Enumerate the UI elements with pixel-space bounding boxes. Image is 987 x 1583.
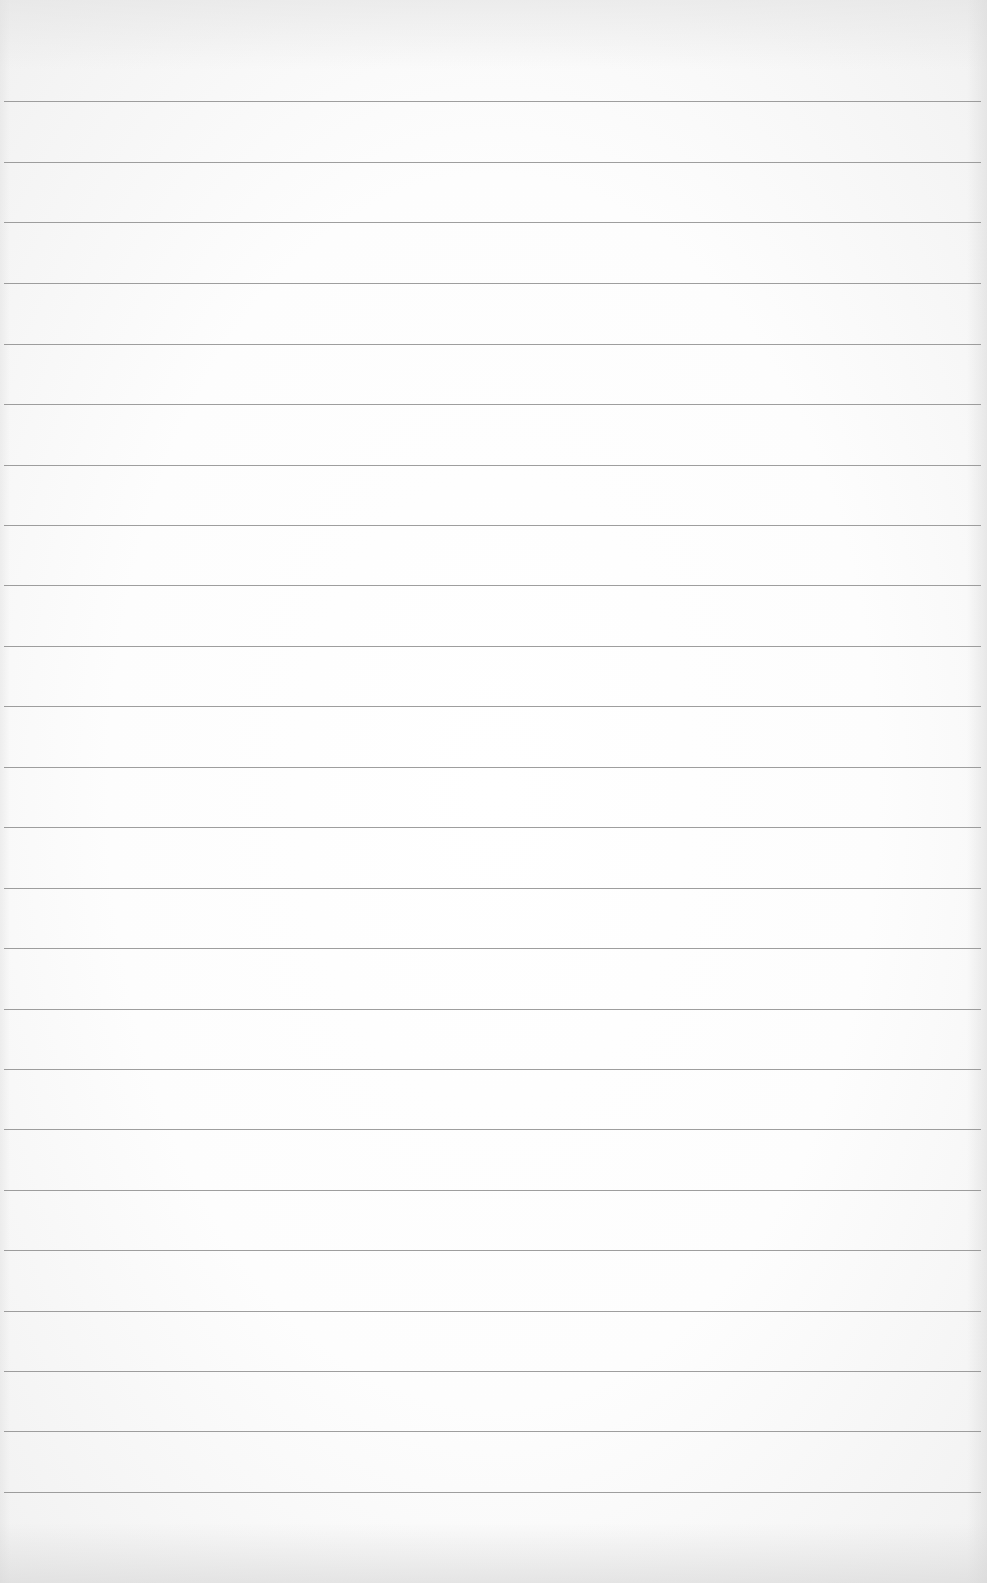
- ruled-line: [4, 344, 981, 345]
- ruled-line: [4, 1250, 981, 1251]
- paper-shadow-bottom: [0, 1523, 987, 1583]
- ruled-line: [4, 948, 981, 949]
- ruled-line: [4, 222, 981, 223]
- ruled-line: [4, 404, 981, 405]
- ruled-line: [4, 827, 981, 828]
- ruled-line: [4, 101, 981, 102]
- ruled-line: [4, 706, 981, 707]
- ruled-line: [4, 162, 981, 163]
- paper-shadow-left: [0, 0, 10, 1583]
- ruled-line: [4, 525, 981, 526]
- ruled-line: [4, 1311, 981, 1312]
- ruled-line: [4, 1431, 981, 1432]
- ruled-line: [4, 1069, 981, 1070]
- ruled-paper-sheet: [0, 0, 987, 1583]
- paper-shadow-top: [0, 0, 987, 70]
- ruled-line: [4, 1129, 981, 1130]
- ruled-line: [4, 1009, 981, 1010]
- ruled-line: [4, 1190, 981, 1191]
- ruled-line: [4, 283, 981, 284]
- ruled-line: [4, 585, 981, 586]
- ruled-line: [4, 1371, 981, 1372]
- ruled-line: [4, 465, 981, 466]
- ruled-line: [4, 767, 981, 768]
- ruled-line: [4, 888, 981, 889]
- paper-shadow-right: [967, 0, 987, 1583]
- ruled-line: [4, 1492, 981, 1493]
- ruled-line: [4, 646, 981, 647]
